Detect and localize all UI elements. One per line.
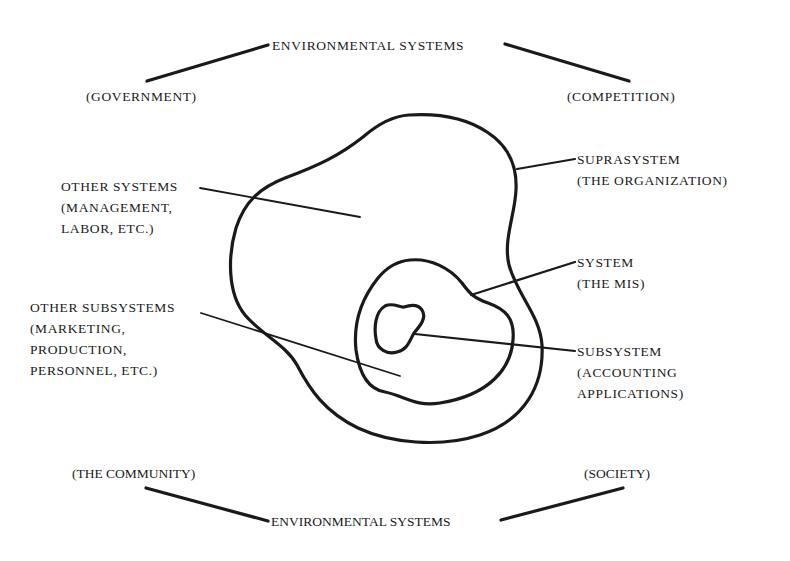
suprasystem-label: SUPRASYSTEM (THE ORGANIZATION): [577, 149, 728, 191]
system-line2: (THE MIS): [577, 273, 645, 294]
other-subsystems-line4: PERSONNEL, ETC.): [30, 360, 175, 381]
subsystem-label: SUBSYSTEM (ACCOUNTING APPLICATIONS): [577, 341, 684, 404]
society-text: (SOCIETY): [584, 463, 650, 484]
community-text: (THE COMMUNITY): [72, 463, 195, 484]
competition-text: (COMPETITION): [567, 86, 675, 107]
suprasystem-leader: [517, 159, 575, 169]
systems-diagram: ENVIRONMENTAL SYSTEMS (GOVERNMENT) (COMP…: [0, 0, 790, 561]
other-systems-label: OTHER SYSTEMS (MANAGEMENT, LABOR, ETC.): [61, 176, 178, 239]
other-subsystems-leader: [201, 313, 400, 376]
system-label: SYSTEM (THE MIS): [577, 252, 645, 294]
other-subsystems-line2: (MARKETING,: [30, 318, 175, 339]
other-systems-line3: LABOR, ETC.): [61, 218, 178, 239]
env-top-left-leader: [147, 45, 268, 81]
environment-top-text: ENVIRONMENTAL SYSTEMS: [272, 35, 464, 56]
subsystem-line1: SUBSYSTEM: [577, 341, 684, 362]
system-line1: SYSTEM: [577, 252, 645, 273]
society-label: (SOCIETY): [584, 463, 650, 484]
other-systems-leader: [200, 188, 360, 217]
other-subsystems-line1: OTHER SUBSYSTEMS: [30, 297, 175, 318]
subsystem-line3: APPLICATIONS): [577, 383, 684, 404]
other-subsystems-label: OTHER SUBSYSTEMS (MARKETING, PRODUCTION,…: [30, 297, 175, 381]
system-boundary: [355, 260, 513, 404]
government-label: (GOVERNMENT): [86, 86, 197, 107]
env-top-right-leader: [505, 44, 629, 81]
other-subsystems-line3: PRODUCTION,: [30, 339, 175, 360]
community-label: (THE COMMUNITY): [72, 463, 195, 484]
subsystem-boundary: [375, 305, 424, 353]
competition-label: (COMPETITION): [567, 86, 675, 107]
environment-bottom-text: ENVIRONMENTAL SYSTEMS: [271, 511, 451, 532]
subsystem-leader: [415, 334, 575, 351]
suprasystem-line1: SUPRASYSTEM: [577, 149, 728, 170]
env-bottom-right-leader: [501, 488, 623, 520]
other-systems-line2: (MANAGEMENT,: [61, 197, 178, 218]
suprasystem-line2: (THE ORGANIZATION): [577, 170, 728, 191]
environment-top-label: ENVIRONMENTAL SYSTEMS: [272, 35, 464, 56]
env-bottom-left-leader: [146, 488, 268, 521]
government-text: (GOVERNMENT): [86, 86, 197, 107]
environment-bottom-label: ENVIRONMENTAL SYSTEMS: [271, 511, 451, 532]
subsystem-line2: (ACCOUNTING: [577, 362, 684, 383]
system-leader: [471, 262, 575, 295]
other-systems-line1: OTHER SYSTEMS: [61, 176, 178, 197]
